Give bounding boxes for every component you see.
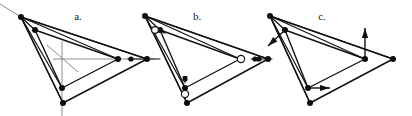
figure-canvas: a.b.c. xyxy=(0,0,412,116)
panel-b-open-circle-marker-0 xyxy=(152,27,159,34)
panel-a-vertex-0 xyxy=(18,14,24,20)
panel-c-vertex-0 xyxy=(267,13,273,19)
panel-a-vertex-4 xyxy=(115,56,121,62)
panel-b-open-circle-marker-1 xyxy=(237,55,244,62)
panel-a-vertex-2 xyxy=(60,100,66,106)
panel-a-vertex-3 xyxy=(32,27,38,33)
panel-c-marker-dot-0 xyxy=(256,56,261,61)
panel-b-label: b. xyxy=(193,10,202,22)
panel-b-vertex-0 xyxy=(142,13,148,19)
panel-b-marker-dot-0 xyxy=(128,56,133,61)
panel-c-label: c. xyxy=(318,10,326,22)
figure-root: a.b.c. xyxy=(0,0,412,116)
panel-a-vertex-5 xyxy=(59,85,65,91)
panel-a-label: a. xyxy=(74,10,82,22)
panel-b-vertex-2 xyxy=(184,100,190,106)
panel-c-vertex-1 xyxy=(390,56,396,62)
panel-b-open-circle-marker-2 xyxy=(181,90,188,97)
panel-c-vertex-2 xyxy=(307,100,313,106)
